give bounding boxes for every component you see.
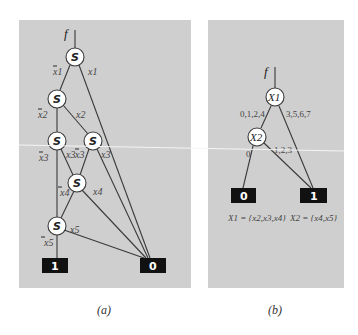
caption-b: (b) (268, 303, 282, 317)
terminal-one-b: 1 (300, 188, 327, 203)
svg-text:S: S (73, 177, 81, 190)
node-s3: S (48, 132, 66, 150)
terminal-zero-b: 0 (231, 188, 256, 203)
svg-text:0: 0 (149, 260, 157, 273)
label-not-x3-left: x3 (38, 152, 48, 163)
svg-text:X1: X1 (267, 91, 280, 103)
svg-text:S: S (53, 93, 61, 106)
caption-a: (a) (97, 303, 111, 317)
node-s1: S (66, 48, 84, 66)
edge-n4-zero (97, 149, 148, 258)
svg-text:X2: X2 (249, 131, 263, 143)
label-x5: x5 (69, 224, 79, 235)
svg-text:0: 0 (240, 190, 248, 203)
label-x3-left: x3 (65, 149, 75, 160)
svg-text:1: 1 (51, 260, 59, 273)
root-label-f-b: f (264, 64, 270, 79)
label-not-x5: x5 (43, 237, 53, 248)
panel-a: f S S S S S S x1 x1 (37, 26, 166, 317)
label-x1-right: 3,5,6,7 (286, 109, 311, 119)
label-x2: x2 (75, 109, 85, 120)
node-s6: S (48, 217, 66, 235)
node-s2: S (48, 90, 66, 108)
edge-labels-a: x1 x1 x2 x2 x3 x3 x3 x3 x4 x4 x5 x5 (37, 66, 110, 248)
label-x1-left: 0,1,2,4 (240, 109, 265, 119)
label-not-x3-right: x3 (74, 149, 84, 160)
terminal-zero-a: 0 (140, 258, 166, 273)
node-s5: S (68, 174, 86, 192)
node-x2: X2 (248, 128, 266, 146)
set-x2-definition: X2 = {x4,x5} (289, 213, 337, 223)
label-x3-right: x3 (100, 149, 110, 160)
root-label-f-a: f (64, 26, 70, 41)
label-not-x4: x4 (59, 187, 69, 198)
svg-text:S: S (71, 51, 79, 64)
panel-b: f X1 X2 0,1,2,4 3,5,6,7 0 1,2,3 0 1 X1 =… (227, 64, 337, 317)
label-not-x2: x2 (37, 109, 47, 120)
label-x4: x4 (92, 186, 102, 197)
label-x2-left: 0 (246, 149, 251, 159)
label-not-x1: x1 (52, 66, 62, 77)
svg-text:1: 1 (310, 190, 318, 203)
set-x1-definition: X1 = {x2,x3,x4} (227, 213, 286, 223)
node-x1: X1 (266, 88, 284, 106)
edge-n1-zero (79, 65, 150, 258)
node-s4: S (84, 132, 102, 150)
terminal-one-a: 1 (42, 258, 68, 273)
label-x1: x1 (87, 66, 97, 77)
bdd-diagram: f S S S S S S x1 x1 (0, 0, 358, 335)
svg-text:S: S (53, 220, 61, 233)
